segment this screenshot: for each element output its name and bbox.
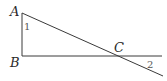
- point-a-label: A: [9, 4, 19, 19]
- angle-1-label: 1: [24, 21, 30, 32]
- angle-2-label: 2: [147, 59, 153, 70]
- triangle-diagram: A B C 1 2: [0, 0, 167, 81]
- point-b-label: B: [9, 55, 20, 70]
- point-c-label: C: [114, 40, 124, 55]
- segment-ac-extended: [22, 13, 163, 76]
